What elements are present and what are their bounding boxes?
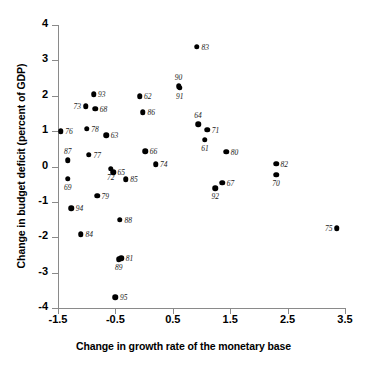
y-tick-mark — [52, 131, 58, 132]
x-tick-label: 0.5 — [165, 313, 180, 325]
data-point — [137, 93, 143, 99]
data-point-label: 86 — [147, 108, 155, 117]
data-point-label: 68 — [100, 104, 108, 113]
data-point-label: 88 — [124, 215, 132, 224]
y-tick-label-text: -1 — [38, 194, 48, 206]
data-point — [142, 149, 148, 155]
y-tick-mark — [52, 96, 58, 97]
data-point-label: 61 — [201, 144, 209, 153]
y-tick-label-text: -3 — [38, 265, 48, 277]
data-point — [68, 205, 74, 211]
data-point — [118, 256, 124, 262]
data-point — [194, 44, 200, 50]
x-tick-label: 3.5 — [337, 313, 352, 325]
y-tick-mark — [52, 167, 58, 168]
data-point-label: 81 — [126, 254, 134, 263]
y-tick-label-text: 0 — [42, 159, 48, 171]
data-point-label: 69 — [64, 183, 72, 192]
data-point — [195, 122, 201, 128]
data-point-label: 79 — [102, 191, 110, 200]
data-point — [86, 152, 92, 158]
data-point-label: 83 — [201, 42, 209, 51]
y-tick-mark — [52, 202, 58, 203]
data-point — [202, 137, 208, 143]
x-tick-label: 1.5 — [223, 313, 238, 325]
data-point-label: 63 — [111, 131, 119, 140]
data-point-label: 84 — [85, 230, 93, 239]
data-point-label: 80 — [231, 147, 239, 156]
y-tick-mark — [52, 25, 58, 26]
data-point — [273, 172, 279, 178]
data-point — [273, 161, 279, 167]
data-point — [219, 180, 225, 186]
data-point-label: 94 — [76, 204, 84, 213]
x-axis-line — [58, 308, 346, 309]
y-tick-label-text: 3 — [42, 52, 48, 64]
data-point-label: 67 — [227, 178, 235, 187]
data-point — [91, 92, 97, 98]
data-point — [113, 295, 119, 301]
data-point-label: 95 — [120, 293, 128, 302]
y-axis-title: Change in budget deficit (percent of GDP… — [15, 16, 27, 316]
y-tick-mark — [52, 273, 58, 274]
data-point — [103, 133, 109, 139]
data-point — [177, 85, 183, 91]
y-tick-label-text: 4 — [42, 17, 48, 29]
y-tick-label-text: -4 — [38, 300, 48, 312]
data-point-label: 73 — [74, 102, 82, 111]
data-point — [223, 149, 229, 155]
x-tick-label: 2.5 — [280, 313, 295, 325]
data-point-label: 92 — [212, 192, 220, 201]
y-tick-label-text: 1 — [42, 123, 48, 135]
data-point — [65, 158, 71, 164]
data-point — [123, 176, 129, 182]
data-point-label: 85 — [130, 175, 138, 184]
data-point-label: 76 — [65, 127, 73, 136]
x-tick-label: -0.5 — [106, 313, 125, 325]
y-tick-mark — [52, 60, 58, 61]
y-tick-mark — [52, 237, 58, 238]
data-point — [84, 126, 90, 132]
data-point-label: 82 — [281, 159, 289, 168]
data-point-label: 75 — [325, 224, 333, 233]
data-point — [93, 106, 99, 112]
x-axis-title: Change in growth rate of the monetary ba… — [0, 340, 367, 352]
y-tick-label-text: -2 — [38, 229, 48, 241]
data-point-label: 64 — [194, 111, 202, 120]
data-point-label: 90 — [175, 73, 183, 82]
data-point-label: 77 — [93, 150, 101, 159]
x-tick-label: -1.5 — [49, 313, 68, 325]
data-point — [213, 185, 219, 191]
data-point-label: 93 — [98, 90, 106, 99]
data-point-label: 87 — [64, 147, 72, 156]
data-point — [117, 217, 123, 223]
data-point — [78, 232, 84, 238]
data-point-label: 65 — [118, 168, 126, 177]
data-point — [204, 127, 210, 133]
data-point-label: 71 — [212, 125, 220, 134]
y-tick-label-text: 2 — [42, 88, 48, 100]
data-point — [334, 225, 340, 231]
y-axis-line — [58, 25, 59, 309]
data-point-label: 62 — [144, 92, 152, 101]
data-point — [83, 104, 89, 110]
data-point — [140, 109, 146, 115]
data-point-label: 78 — [91, 124, 99, 133]
data-point-label: 74 — [160, 160, 168, 169]
data-point — [65, 176, 71, 182]
data-point-label: 91 — [176, 92, 184, 101]
data-point-label: 70 — [272, 179, 280, 188]
data-point-label: 66 — [150, 147, 158, 156]
scatter-chart: Change in budget deficit (percent of GDP… — [0, 0, 367, 368]
data-point — [153, 162, 159, 168]
data-point — [110, 169, 116, 175]
data-point-label: 89 — [115, 263, 123, 272]
data-point — [94, 193, 100, 199]
data-point — [58, 128, 64, 134]
